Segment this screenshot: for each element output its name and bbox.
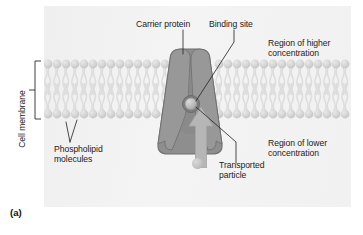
leader-binding-site [196,30,234,101]
phospholipid-molecules-label: Phospholipid molecules [54,144,103,164]
cell-membrane-label: Cell membrane [17,80,27,158]
leader-transported-particle [196,107,236,163]
leader-lines [0,0,363,235]
leader-phospholipid-b [66,122,70,142]
figure-letter: (a) [10,207,22,218]
cell-membrane-label-wrap: Cell membrane [8,52,36,130]
transported-particle-label: Transported particle [219,160,264,180]
leader-phospholipid-a [70,120,77,142]
carrier-protein-label: Carrier protein [136,19,190,29]
figure-facilitated-diffusion: Cell membrane Carrier protein Binding si… [0,0,363,235]
region-higher-concentration-label: Region of higher concentration [268,38,330,58]
binding-site-label: Binding site [209,19,253,29]
region-lower-concentration-label: Region of lower concentration [268,138,327,158]
